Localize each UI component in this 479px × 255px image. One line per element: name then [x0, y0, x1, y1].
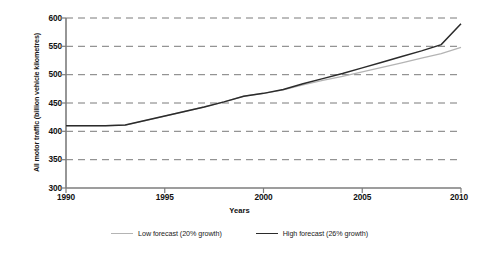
- series-line-low-forecast: [66, 47, 461, 125]
- x-tick-2005: 2005: [337, 192, 387, 202]
- x-tick-1995: 1995: [140, 192, 190, 202]
- plot-area: [0, 0, 479, 255]
- legend-swatch-low-icon: [111, 233, 133, 234]
- legend-label-low-forecast: Low forecast (20% growth): [138, 229, 222, 238]
- chart-figure: All motor traffic (billion vehicle kilom…: [0, 0, 479, 255]
- x-tick-2010: 2010: [434, 192, 479, 202]
- legend-entry-high-forecast: High forecast (26% growth): [256, 229, 368, 238]
- legend-label-high-forecast: High forecast (26% growth): [283, 229, 368, 238]
- chart-legend: Low forecast (20% growth) High forecast …: [0, 229, 479, 238]
- x-tick-1990: 1990: [41, 192, 91, 202]
- x-axis-title: Years: [0, 206, 479, 215]
- legend-entry-low-forecast: Low forecast (20% growth): [111, 229, 222, 238]
- gridlines: [66, 18, 461, 160]
- legend-swatch-high-icon: [256, 233, 278, 234]
- x-tick-2000: 2000: [239, 192, 289, 202]
